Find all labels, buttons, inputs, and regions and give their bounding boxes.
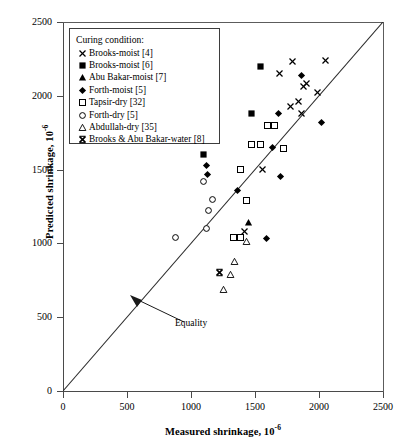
data-point bbox=[297, 109, 306, 118]
legend-marker-icon bbox=[76, 61, 89, 70]
legend-item-label: Brooks-moist [4] bbox=[89, 48, 153, 59]
data-point bbox=[219, 285, 228, 294]
data-point bbox=[313, 88, 322, 97]
x-axis-tick-label: 1000 bbox=[166, 402, 216, 412]
data-point bbox=[262, 234, 271, 243]
y-axis-title: Predicted shrinkage, 10-6 bbox=[41, 72, 55, 292]
legend-marker-icon bbox=[76, 73, 89, 82]
equality-annotation-label: Equality bbox=[175, 318, 207, 328]
data-point bbox=[274, 109, 283, 118]
x-axis-title-exponent: -6 bbox=[275, 423, 282, 432]
data-point bbox=[202, 224, 211, 233]
legend-item: Brooks-moist [4] bbox=[76, 47, 219, 59]
data-point bbox=[276, 172, 285, 181]
y-axis-tick-label: 500 bbox=[10, 312, 52, 322]
x-axis-tick bbox=[191, 392, 192, 398]
x-axis-tick bbox=[383, 392, 384, 398]
data-point bbox=[317, 118, 326, 127]
x-axis-tick bbox=[63, 392, 64, 398]
y-axis-title-text: Predicted shrinkage, 10 bbox=[44, 131, 55, 239]
data-point bbox=[233, 186, 242, 195]
legend-marker-icon bbox=[76, 123, 89, 132]
data-point bbox=[230, 257, 239, 266]
data-point bbox=[226, 270, 235, 279]
legend-title: Curing condition: bbox=[76, 34, 219, 45]
legend-item: Abdullah-dry [35] bbox=[76, 121, 219, 133]
legend-item: Brooks & Abu Bakar-water [8] bbox=[76, 134, 219, 146]
data-point bbox=[279, 144, 288, 153]
legend-item-label: Brooks & Abu Bakar-water [8] bbox=[89, 134, 204, 145]
data-point bbox=[288, 57, 297, 66]
legend-item: Forth-dry [5] bbox=[76, 109, 219, 121]
data-point bbox=[256, 62, 265, 71]
data-point bbox=[208, 195, 217, 204]
data-point bbox=[199, 150, 208, 159]
legend-item-label: Tapsir-dry [32] bbox=[89, 97, 145, 108]
legend-marker-icon bbox=[76, 49, 89, 58]
x-axis-title: Measured shrinkage, 10-6 bbox=[63, 423, 383, 437]
legend-item: Brooks-moist [6] bbox=[76, 59, 219, 71]
x-axis-title-text: Measured shrinkage, 10 bbox=[165, 426, 275, 437]
data-point bbox=[268, 143, 277, 152]
y-axis-tick-label: 0 bbox=[10, 386, 52, 396]
scatter-chart-figure: Predicted shrinkage, 10-6 Measured shrin… bbox=[0, 0, 405, 447]
data-point bbox=[242, 237, 251, 246]
data-point bbox=[321, 56, 330, 65]
data-point bbox=[199, 177, 208, 186]
legend-item-label: Forth-dry [5] bbox=[89, 110, 138, 121]
x-axis-tick bbox=[255, 392, 256, 398]
legend-item-label: Abu Bakar-moist [7] bbox=[89, 72, 166, 83]
y-axis-tick-label: 1500 bbox=[10, 165, 52, 175]
data-point bbox=[215, 268, 224, 277]
legend-items: Brooks-moist [4]Brooks-moist [6]Abu Baka… bbox=[76, 47, 219, 146]
data-point bbox=[275, 69, 284, 78]
data-point bbox=[256, 140, 265, 149]
y-axis-tick-label: 2000 bbox=[10, 91, 52, 101]
data-point bbox=[202, 161, 211, 170]
data-point bbox=[236, 165, 245, 174]
data-point bbox=[247, 109, 256, 118]
y-axis-title-exponent: -6 bbox=[41, 125, 50, 132]
data-point bbox=[242, 196, 251, 205]
y-axis-tick-label: 1000 bbox=[10, 238, 52, 248]
x-axis-tick bbox=[319, 392, 320, 398]
data-point bbox=[294, 97, 303, 106]
legend-marker-icon bbox=[76, 135, 89, 144]
legend: Curing condition: Brooks-moist [4]Brooks… bbox=[69, 28, 220, 144]
data-point bbox=[204, 206, 213, 215]
legend-item: Forth-moist [5] bbox=[76, 84, 219, 96]
legend-item-label: Forth-moist [5] bbox=[89, 85, 146, 96]
data-point bbox=[302, 79, 311, 88]
data-point bbox=[258, 165, 267, 174]
y-axis-tick-label: 2500 bbox=[10, 17, 52, 27]
data-point bbox=[244, 218, 253, 227]
x-axis-tick-label: 1500 bbox=[230, 402, 280, 412]
x-axis-tick bbox=[127, 392, 128, 398]
data-point bbox=[171, 233, 180, 242]
legend-item: Tapsir-dry [32] bbox=[76, 97, 219, 109]
legend-item: Abu Bakar-moist [7] bbox=[76, 72, 219, 84]
legend-marker-icon bbox=[76, 111, 89, 120]
x-axis-tick-label: 500 bbox=[102, 402, 152, 412]
x-axis-tick-label: 2000 bbox=[294, 402, 344, 412]
legend-item-label: Abdullah-dry [35] bbox=[89, 122, 157, 133]
data-point bbox=[297, 71, 306, 80]
legend-marker-icon bbox=[76, 98, 89, 107]
legend-marker-icon bbox=[76, 86, 89, 95]
x-axis-tick-label: 0 bbox=[38, 402, 88, 412]
data-point bbox=[270, 121, 279, 130]
legend-item-label: Brooks-moist [6] bbox=[89, 60, 153, 71]
data-point bbox=[247, 140, 256, 149]
x-axis-tick-label: 2500 bbox=[358, 402, 405, 412]
